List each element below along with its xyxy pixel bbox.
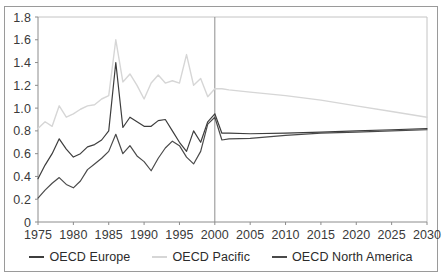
x-tick-label: 2020 [342,228,370,242]
x-tick-label: 1980 [59,228,87,242]
chart-series-lines [38,40,427,198]
series-line-oecd-europe [38,63,427,179]
line-chart: 00.20.40.60.81.01.21.41.61.8 19751980198… [0,0,442,278]
x-axis-tick-labels: 1975198019851990199520002005201020152020… [24,228,441,242]
legend-item-label: OECD Pacific [172,250,250,264]
y-tick-label: 0.2 [13,193,31,207]
x-tick-label: 2025 [378,228,406,242]
y-tick-label: 1.4 [13,56,31,70]
legend-line-icon [152,256,167,258]
plot-border [38,17,427,222]
x-tick-label: 1975 [24,228,52,242]
y-axis-tick-labels: 00.20.40.60.81.01.21.41.61.8 [13,11,31,230]
series-line-oecd-north-america [38,117,427,198]
legend-item-oecd-pacific[interactable]: OECD Pacific [152,250,250,264]
legend-line-icon [272,256,287,258]
chart-legend: OECD EuropeOECD PacificOECD North Americ… [0,246,442,268]
legend-item-oecd-north-america[interactable]: OECD North America [272,250,413,264]
x-tick-label: 1985 [95,228,123,242]
y-tick-label: 0.8 [13,124,31,138]
x-tick-label: 2010 [271,228,299,242]
legend-line-icon [29,256,44,258]
y-tick-label: 1.6 [13,33,31,47]
legend-item-label: OECD Europe [49,250,130,264]
chart-figure: 00.20.40.60.81.01.21.41.61.8 19751980198… [0,0,442,278]
chart-axes [35,17,427,225]
y-tick-label: 1.0 [13,102,31,116]
series-line-oecd-pacific [38,40,427,129]
legend-item-oecd-europe[interactable]: OECD Europe [29,250,130,264]
x-tick-label: 2030 [413,228,441,242]
y-tick-label: 1.8 [13,11,31,25]
y-tick-label: 1.2 [13,79,31,93]
y-tick-label: 0.6 [13,147,31,161]
y-tick-label: 0.4 [13,170,31,184]
x-tick-label: 2005 [236,228,264,242]
x-tick-label: 2000 [201,228,229,242]
legend-item-label: OECD North America [292,250,413,264]
x-tick-label: 1990 [130,228,158,242]
x-tick-label: 1995 [165,228,193,242]
x-tick-label: 2015 [307,228,335,242]
